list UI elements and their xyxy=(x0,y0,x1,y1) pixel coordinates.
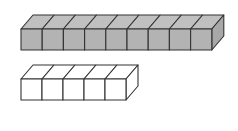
cube-front-face xyxy=(105,79,126,100)
cube-front-face xyxy=(21,79,42,100)
cube-front-face xyxy=(21,29,42,50)
cube-front-face xyxy=(63,79,84,100)
cube-front-face xyxy=(191,29,212,50)
white-cube-row xyxy=(21,65,138,100)
cube-front-face xyxy=(127,29,148,50)
cube-front-face xyxy=(148,29,169,50)
cube-rows-diagram xyxy=(0,0,238,131)
cube-front-face xyxy=(63,29,84,50)
cube-front-face xyxy=(42,29,63,50)
cube-front-face xyxy=(42,79,63,100)
gray-cube-row xyxy=(21,15,224,50)
cube-front-face xyxy=(85,29,106,50)
cube-front-face xyxy=(84,79,105,100)
cube-front-face xyxy=(169,29,190,50)
cube-front-face xyxy=(106,29,127,50)
